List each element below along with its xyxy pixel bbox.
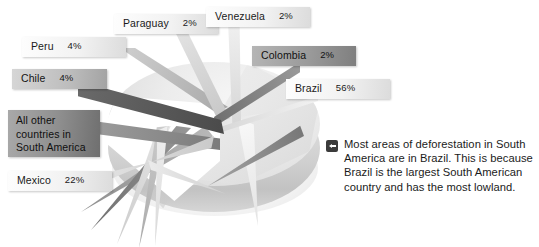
pie-label-venezuela: Venezuela 2% bbox=[206, 7, 310, 27]
pie-label-venezuela-percent: 2% bbox=[279, 10, 293, 23]
pie-label-mexico-percent: 22% bbox=[65, 174, 84, 187]
pie-label-mexico-name: Mexico bbox=[17, 174, 51, 187]
deforestation-pie-chart-figure: Peru 4% Paraguay 2% Venezuela 2% Colombi… bbox=[0, 0, 539, 247]
pie-label-colombia-percent: 2% bbox=[320, 49, 334, 62]
pie-label-peru-name: Peru bbox=[31, 40, 54, 53]
pie-label-paraguay: Paraguay 2% bbox=[114, 14, 218, 34]
pie-label-chile-percent: 4% bbox=[59, 72, 73, 85]
pie-label-paraguay-percent: 2% bbox=[183, 17, 197, 30]
pie-label-brazil-percent: 56% bbox=[336, 82, 355, 95]
pie-label-venezuela-name: Venezuela bbox=[215, 10, 265, 23]
pie-label-chile-name: Chile bbox=[21, 72, 45, 85]
left-arrow-icon bbox=[326, 140, 338, 152]
pie-label-all-other-countries-name: All other countries in South America bbox=[16, 114, 92, 155]
pie-label-colombia: Colombia 2% bbox=[252, 46, 356, 66]
pie-label-chile: Chile 4% bbox=[12, 69, 107, 89]
pie-label-all-other-countries: All other countries in South America bbox=[8, 110, 100, 157]
pie-label-colombia-name: Colombia bbox=[261, 49, 306, 62]
figure-caption-text: Most areas of deforestation in South Ame… bbox=[344, 137, 536, 194]
pie-label-peru-percent: 4% bbox=[68, 40, 82, 53]
pie-label-brazil-name: Brazil bbox=[295, 82, 322, 95]
pie-label-peru: Peru 4% bbox=[22, 37, 126, 57]
pie-label-mexico: Mexico 22% bbox=[8, 171, 112, 191]
pie-label-paraguay-name: Paraguay bbox=[123, 17, 169, 30]
pie-label-brazil: Brazil 56% bbox=[286, 79, 390, 99]
figure-caption: Most areas of deforestation in South Ame… bbox=[326, 137, 536, 194]
